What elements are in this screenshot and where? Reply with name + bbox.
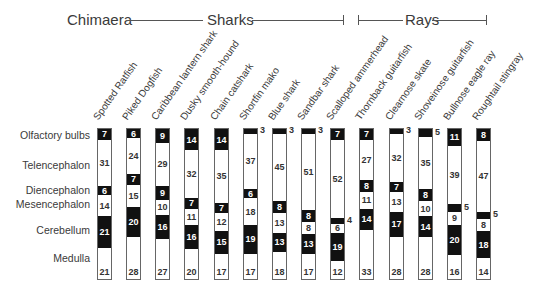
- sharks-bracket-line: [252, 20, 343, 21]
- bar-blue-shark: 3458131318: [272, 128, 287, 280]
- segment-olfactory-bulbs: 14: [185, 129, 198, 150]
- segment-value: 11: [362, 195, 372, 205]
- bar-shortfin-mako: 3376181917: [243, 128, 258, 280]
- segment-cerebellum: 14: [419, 216, 432, 237]
- rays-bracket-line-right: [432, 20, 486, 21]
- segment-medulla: 17: [244, 254, 257, 280]
- segment-olfactory-bulbs: [419, 129, 432, 137]
- segment-cerebellum: 13: [273, 233, 286, 253]
- chimaera-sharks-line: [127, 20, 203, 21]
- segment-cerebellum: 16: [185, 225, 198, 249]
- segment-telencephalon: 29: [156, 143, 169, 187]
- group-label-sharks: Sharks: [207, 11, 254, 29]
- segment-value: 37: [245, 156, 255, 166]
- segment-medulla: 12: [331, 261, 344, 279]
- column-label-thornback-guitarfish: Thornback guitarfish: [353, 41, 414, 122]
- bar-sandbar-shark: 351881317: [301, 128, 316, 280]
- segment-value: 13: [274, 218, 284, 228]
- segment-diencephalon: 7: [390, 182, 403, 193]
- segment-diencephalon: 7: [185, 198, 198, 209]
- segment-value: 8: [306, 211, 311, 221]
- segment-olfactory-bulbs: 8: [477, 129, 490, 141]
- segment-telencephalon: 32: [185, 150, 198, 198]
- segment-diencephalon: 8: [360, 180, 373, 192]
- segment-value: 27: [157, 267, 167, 277]
- segment-olfactory-bulbs: 6: [127, 129, 140, 138]
- segment-medulla: 28: [390, 237, 403, 279]
- segment-value: 47: [478, 171, 488, 181]
- sharks-bracket-end: [343, 15, 344, 25]
- segment-value: 17: [303, 267, 313, 277]
- segment-value: 21: [99, 267, 109, 277]
- segment-value: 15: [216, 237, 226, 247]
- segment-telencephalon: 52: [331, 140, 344, 218]
- segment-value: 13: [274, 237, 284, 247]
- segment-value: 45: [274, 162, 284, 172]
- column-label-bullnose-eagle-ray: Bullnose eagle ray: [441, 48, 497, 122]
- segment-value: 13: [391, 197, 401, 207]
- segment-value: 14: [420, 222, 430, 232]
- segment-value: 8: [481, 130, 486, 140]
- segment-telencephalon: 24: [127, 138, 140, 174]
- segment-value: 12: [332, 267, 342, 277]
- segment-value-outside: 3: [289, 126, 294, 135]
- segment-value: 21: [99, 227, 109, 237]
- segment-value: 32: [186, 169, 196, 179]
- segment-mesencephalon: 8: [302, 222, 315, 234]
- bar-clearnose-skate: 3327131728: [389, 128, 404, 280]
- segment-value: 17: [245, 267, 255, 277]
- segment-value: 7: [364, 129, 369, 139]
- segment-value: 10: [157, 202, 167, 212]
- segment-cerebellum: 20: [127, 207, 140, 237]
- segment-diencephalon: 8: [419, 189, 432, 201]
- segment-mesencephalon: 14: [98, 195, 111, 216]
- segment-olfactory-bulbs: 9: [156, 129, 169, 143]
- segment-value: 7: [394, 182, 399, 192]
- segment-diencephalon: [477, 212, 490, 220]
- segment-mesencephalon: 8: [477, 219, 490, 231]
- segment-telencephalon: 47: [477, 141, 490, 212]
- segment-cerebellum: 14: [360, 209, 373, 230]
- segment-value: 7: [219, 203, 224, 213]
- segment-value: 14: [361, 214, 371, 224]
- segment-value: 20: [186, 267, 196, 277]
- segment-value: 7: [131, 174, 136, 184]
- segment-value: 9: [160, 188, 165, 198]
- segment-telencephalon: 51: [302, 134, 315, 211]
- row-label-telencephalon: Telencephalon: [22, 159, 90, 171]
- segment-medulla: 28: [127, 237, 140, 279]
- segment-value: 10: [420, 204, 430, 214]
- segment-value: 28: [391, 267, 401, 277]
- segment-cerebellum: 13: [302, 234, 315, 254]
- segment-diencephalon: 9: [156, 186, 169, 200]
- segment-value: 14: [186, 135, 196, 145]
- segment-cerebellum: 17: [390, 212, 403, 238]
- segment-value-outside: 5: [435, 128, 440, 137]
- segment-value: 6: [102, 186, 107, 196]
- segment-value: 19: [332, 242, 342, 252]
- segment-telencephalon: 27: [360, 140, 373, 181]
- segment-value: 24: [128, 151, 138, 161]
- segment-value: 16: [157, 222, 167, 232]
- segment-value-outside: 3: [318, 126, 323, 135]
- segment-value-outside: 4: [347, 216, 352, 225]
- segment-value: 14: [216, 135, 226, 145]
- bar-caribbean-lantern-shark: 9299101627: [155, 128, 170, 280]
- segment-telencephalon: 45: [273, 134, 286, 202]
- segment-value: 15: [128, 191, 138, 201]
- segment-diencephalon: 7: [215, 203, 228, 214]
- segment-mesencephalon: 12: [215, 213, 228, 231]
- segment-value-outside: 5: [493, 210, 498, 219]
- segment-value: 8: [481, 220, 486, 230]
- segment-value: 33: [361, 267, 371, 277]
- segment-olfactory-bulbs: 7: [360, 129, 373, 140]
- row-label-mesencephalon: Mesencephalon: [16, 198, 90, 210]
- segment-value: 16: [186, 232, 196, 242]
- segment-medulla: 20: [185, 249, 198, 279]
- segment-value: 27: [361, 155, 371, 165]
- segment-value: 28: [420, 267, 430, 277]
- segment-value: 7: [335, 129, 340, 139]
- segment-telencephalon: 37: [244, 134, 257, 190]
- segment-cerebellum: 21: [98, 216, 111, 248]
- segment-medulla: 16: [448, 255, 461, 279]
